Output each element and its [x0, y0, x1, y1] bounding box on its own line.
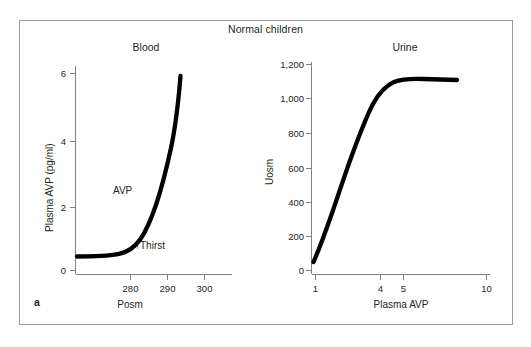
blood-ytick-label-6: 6	[50, 68, 66, 79]
blood-ytick-label-0: 0	[50, 265, 66, 276]
urine-xtick-label-1: 1	[301, 283, 330, 294]
urine-axes	[306, 62, 490, 280]
blood-xtick-label-300: 300	[187, 283, 222, 294]
urine-xtick-label-5: 5	[389, 283, 418, 294]
blood-xtick-label-290: 290	[150, 283, 185, 294]
urine-ytick-label-0: 0	[268, 265, 304, 276]
panel-letter-label: a	[34, 296, 40, 308]
urine-ytick-label-1200: 1,200	[268, 59, 304, 70]
blood-avp-curve	[77, 76, 181, 257]
urine-xtick-label-10: 10	[472, 283, 501, 294]
urine-ytick-label-1000: 1,000	[268, 93, 304, 104]
blood-xtick-label-280: 280	[113, 283, 148, 294]
urine-ytick-label-400: 400	[268, 197, 304, 208]
figure-root: Normal children Blood Urine	[0, 0, 531, 347]
annotation-thirst: ↑Thirst	[135, 240, 165, 251]
annotation-avp: AVP	[113, 185, 132, 196]
urine-ytick-label-200: 200	[268, 231, 304, 242]
urine-uosm-curve	[314, 79, 458, 262]
urine-ytick-label-800: 800	[268, 128, 304, 139]
urine-y-axis-title: Uosm	[264, 159, 275, 185]
blood-y-axis-title: Plasma AVP (pg/ml)	[44, 143, 55, 232]
urine-x-axis-title: Plasma AVP	[351, 299, 451, 310]
blood-x-axis-title: Posm	[100, 299, 160, 310]
